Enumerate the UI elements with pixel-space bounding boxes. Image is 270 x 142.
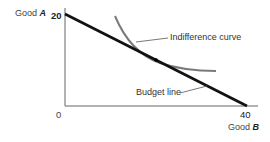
budget-line-leader — [180, 86, 207, 93]
origin-label: 0 — [56, 110, 61, 120]
y-axis-label-text: Good — [15, 8, 40, 18]
tangency-point — [154, 58, 158, 62]
y-axis-label-var: A — [40, 8, 47, 18]
indifference-curve-leader — [136, 38, 168, 42]
x-axis-label: Good B — [228, 123, 259, 132]
diagram-canvas — [0, 0, 270, 142]
indifference-curve-label: Indifference curve — [170, 33, 241, 42]
x-axis-label-text: Good — [228, 122, 253, 132]
y-intercept-label: 20 — [51, 11, 62, 21]
x-axis-label-var: B — [253, 122, 260, 132]
y-axis-label: Good A — [15, 9, 46, 18]
indifference-curve — [115, 16, 216, 71]
x-intercept-label: 40 — [240, 110, 251, 120]
budget-line-label: Budget line — [136, 88, 181, 97]
